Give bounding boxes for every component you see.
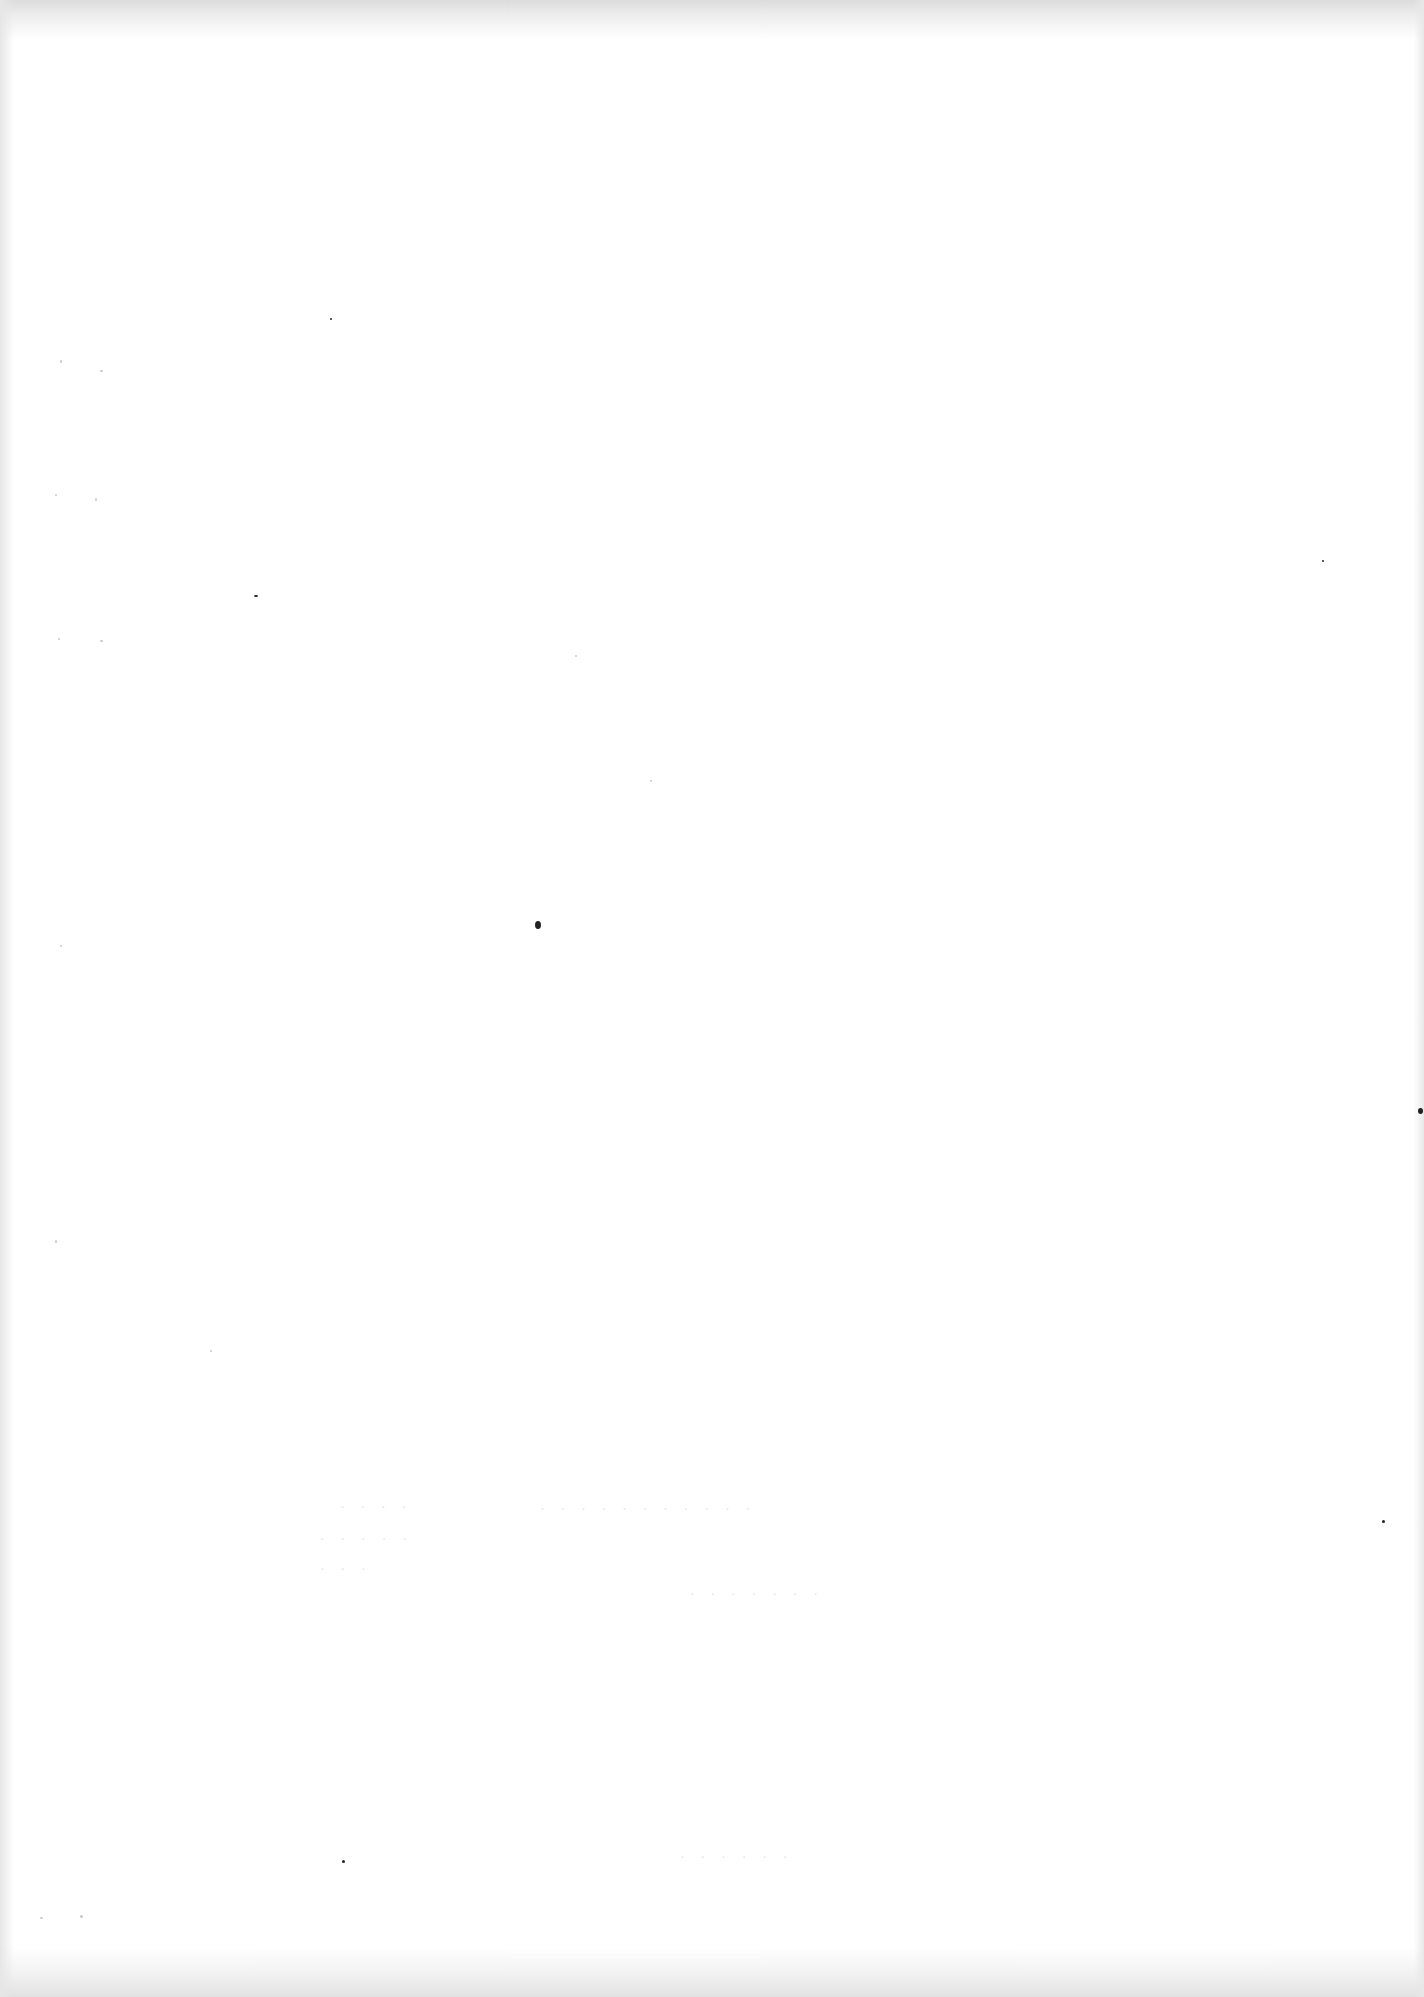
dust-speck [535, 921, 541, 929]
show-through-text-row: · · · · · · · · · · · [540, 1500, 756, 1516]
dust-speck [1418, 1108, 1423, 1114]
show-through-text-row: · · · · [340, 1498, 412, 1514]
show-through-text-row: · · · · · · [680, 1848, 793, 1864]
show-through-text-row: · · · · · [320, 1530, 413, 1546]
scanned-blank-page: · · · · · · · · · · · · · · · · · · · · … [0, 0, 1424, 1997]
show-through-mark [60, 360, 62, 363]
show-through-mark [58, 638, 60, 640]
show-through-mark [80, 1915, 83, 1918]
show-through-mark [60, 945, 62, 947]
show-through-mark [100, 640, 103, 642]
show-through-text-row: · · · · · · · [690, 1585, 824, 1601]
show-through-mark [55, 1240, 57, 1243]
show-through-mark [95, 498, 97, 501]
dust-speck [254, 595, 258, 597]
dust-speck [1322, 560, 1324, 562]
scan-edge-bottom [0, 1947, 1424, 1997]
show-through-mark [55, 494, 57, 496]
show-through-mark [40, 1917, 43, 1919]
scan-edge-left [0, 0, 14, 1997]
show-through-mark [650, 780, 652, 782]
dust-speck [342, 1860, 345, 1863]
show-through-mark [210, 1350, 212, 1352]
show-through-mark [575, 655, 577, 657]
dust-speck [1382, 1520, 1385, 1523]
show-through-text-row: · · · [320, 1560, 372, 1576]
scan-edge-right [1414, 0, 1424, 1997]
show-through-mark [100, 370, 103, 372]
scan-edge-top [0, 0, 1424, 40]
dust-speck [330, 318, 332, 320]
